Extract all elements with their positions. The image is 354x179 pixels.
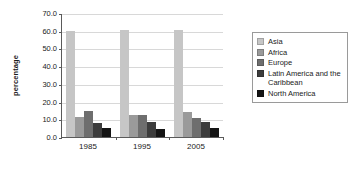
bar <box>93 123 102 137</box>
y-tick-label: 40.0 <box>42 63 57 71</box>
bar <box>201 122 210 137</box>
legend-label: Asia <box>268 37 283 47</box>
bar <box>66 31 75 137</box>
y-tick-label: 20.0 <box>42 99 57 107</box>
bar <box>84 111 93 137</box>
legend-label: North America <box>268 89 316 99</box>
y-axis-title-label: percentage <box>12 54 21 95</box>
legend-item[interactable]: Latin America and the Caribbean <box>257 69 344 88</box>
legend-swatch <box>257 38 264 45</box>
y-tick-label: 60.0 <box>42 28 57 36</box>
x-tick-label: 1995 <box>115 142 169 151</box>
y-tick-label: 0.0 <box>47 134 57 142</box>
bar-group <box>62 14 116 137</box>
bar <box>210 128 219 137</box>
x-tick-mark <box>223 137 224 140</box>
y-axis-tick-labels: 0.010.020.030.040.050.060.070.0 <box>30 14 60 138</box>
bar <box>183 112 192 137</box>
y-tick-label: 30.0 <box>42 81 57 89</box>
y-tick-mark <box>59 138 62 139</box>
bar <box>120 30 129 137</box>
bar-group <box>169 14 223 137</box>
y-tick-label: 50.0 <box>42 45 57 53</box>
bar-set <box>120 14 165 137</box>
legend: AsiaAfricaEuropeLatin America and the Ca… <box>252 32 348 103</box>
legend-swatch <box>257 49 264 56</box>
y-tick-label: 70.0 <box>42 10 57 18</box>
bar <box>138 115 147 137</box>
x-tick-mark <box>116 137 117 140</box>
bar <box>102 128 111 137</box>
y-axis-title: percentage <box>2 0 30 150</box>
legend-swatch <box>257 59 264 66</box>
bar-set <box>66 14 111 137</box>
bar-chart: percentage 0.010.020.030.040.050.060.070… <box>0 0 354 179</box>
plot-area <box>61 14 223 138</box>
x-axis-tick-labels: 198519952005 <box>61 142 223 151</box>
bar-groups <box>62 14 223 137</box>
plot-area-wrapper: 0.010.020.030.040.050.060.070.0 19851995… <box>30 14 230 170</box>
legend-item[interactable]: North America <box>257 89 344 99</box>
bar <box>129 115 138 137</box>
bar <box>156 129 165 138</box>
bar <box>147 122 156 137</box>
bar <box>75 117 84 137</box>
x-tick-mark <box>169 137 170 140</box>
legend-label: Latin America and the Caribbean <box>268 69 344 88</box>
bar-set <box>174 14 219 137</box>
legend-label: Europe <box>268 58 292 68</box>
x-tick-label: 1985 <box>61 142 115 151</box>
bar <box>174 30 183 137</box>
legend-item[interactable]: Africa <box>257 48 344 58</box>
y-tick-label: 10.0 <box>42 116 57 124</box>
bar <box>192 118 201 137</box>
legend-swatch <box>257 90 264 97</box>
x-tick-label: 2005 <box>169 142 223 151</box>
bar-group <box>116 14 170 137</box>
legend-item[interactable]: Europe <box>257 58 344 68</box>
legend-label: Africa <box>268 48 287 58</box>
legend-swatch <box>257 70 264 77</box>
legend-item[interactable]: Asia <box>257 37 344 47</box>
